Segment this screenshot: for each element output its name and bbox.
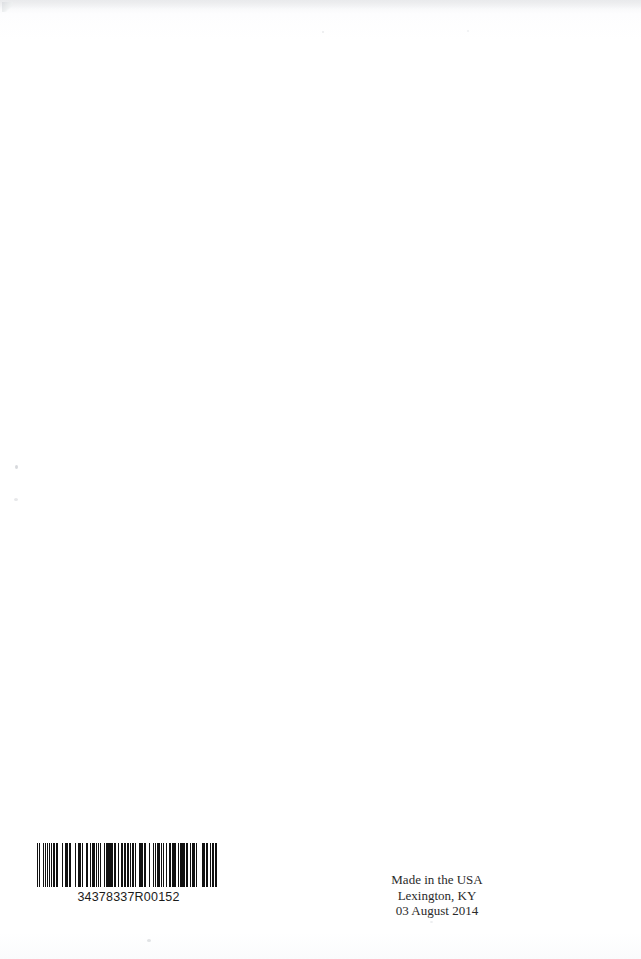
barcode-block: 34378337R00152 [37, 843, 220, 904]
scan-corner-artifact [2, 2, 13, 12]
scanned-page: 34378337R00152 Made in the USA Lexington… [0, 0, 641, 959]
dust-speck [322, 31, 324, 33]
barcode-number-text: 34378337R00152 [37, 890, 220, 904]
imprint-line-origin: Made in the USA [372, 872, 502, 888]
dust-speck [467, 30, 469, 32]
barcode-symbol [37, 843, 220, 887]
scan-edge-top [0, 0, 641, 9]
imprint-line-date: 03 August 2014 [372, 903, 502, 919]
dust-speck [430, 921, 433, 923]
imprint-block: Made in the USA Lexington, KY 03 August … [372, 872, 502, 919]
dust-speck [14, 498, 18, 501]
paper-background [0, 0, 641, 959]
dust-speck [147, 939, 151, 942]
imprint-line-city: Lexington, KY [372, 888, 502, 904]
scan-edge-bottom [0, 933, 641, 959]
dust-speck [15, 465, 18, 469]
